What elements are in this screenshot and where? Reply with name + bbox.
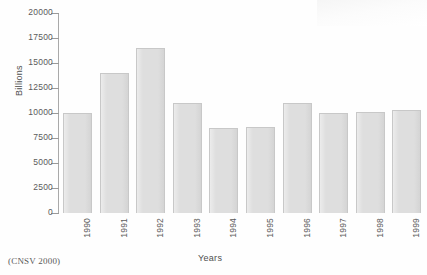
bar [319,113,348,213]
bar-slot: 1997 [319,13,348,213]
source-caption: (CNSV 2000) [8,256,60,266]
bar [100,73,129,213]
bar-slot: 1992 [136,13,165,213]
y-tick-label: 10000 [28,107,53,118]
bar-slot: 1990 [63,13,92,213]
bar [209,128,238,213]
bar-slot: 1996 [283,13,312,213]
x-tick-label: 1993 [173,218,202,228]
y-tick-label: 17500 [28,32,53,43]
x-tick-label: 1995 [246,218,275,228]
y-tick-label: 20000 [28,7,53,18]
bar [392,110,421,213]
bar-slot: 1999 [392,13,421,213]
x-tick-label: 1991 [100,218,129,228]
y-tick-label: 2500 [33,182,53,193]
y-tick-label: 15000 [28,57,53,68]
x-tick-label: 1992 [136,218,165,228]
bar [63,113,92,213]
x-tick-label: 1999 [392,218,421,228]
bar-series: 1990199119921993199419951996199719981999 [59,13,418,213]
x-tick-label: 1998 [356,218,385,228]
y-tick-label: 12500 [28,82,53,93]
bar-slot: 1991 [100,13,129,213]
x-tick-label: 1990 [63,218,92,228]
figure: Billions 0250050007500100001250015000175… [0,0,427,275]
bar [246,127,275,213]
bar-slot: 1994 [209,13,238,213]
y-tick-label: 7500 [33,132,53,143]
bar-slot: 1995 [246,13,275,213]
y-tick-label: 0 [48,207,53,218]
bar [136,48,165,213]
bar [283,103,312,213]
bar-slot: 1993 [173,13,202,213]
x-tick-label: 1996 [283,218,312,228]
x-tick-label: 1997 [319,218,348,228]
x-tick-label: 1994 [209,218,238,228]
y-tick-label: 5000 [33,157,53,168]
plot-area: 02500500075001000012500150001750020000 1… [58,13,418,213]
bar [356,112,385,213]
y-axis-title: Billions [14,65,24,96]
bar [173,103,202,213]
bar-slot: 1998 [356,13,385,213]
x-axis-title: Years [198,253,222,263]
